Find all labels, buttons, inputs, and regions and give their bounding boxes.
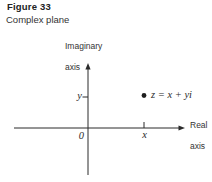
- complex-plane-figure: Figure 33 Complex plane Imaginary axis R…: [0, 0, 212, 182]
- axes-drawing: [0, 0, 212, 182]
- imaginary-axis-arrowhead-icon: [85, 63, 90, 70]
- real-axis-arrowhead-icon: [179, 125, 186, 130]
- point-z-dot-icon: [142, 93, 147, 98]
